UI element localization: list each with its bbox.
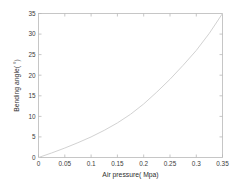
x-tick-marks — [39, 155, 223, 158]
x-tick-label: 0 — [37, 160, 41, 167]
chart-canvas: 0 0.05 0.1 0.15 0.2 0.25 0.3 0.35 0 5 10… — [0, 0, 240, 187]
y-tick-label: 5 — [32, 133, 36, 140]
y-tick-label: 15 — [28, 92, 36, 99]
x-tick-label: 0.05 — [59, 160, 72, 167]
y-tick-label: 10 — [28, 113, 36, 120]
x-tick-label: 0.15 — [111, 160, 124, 167]
y-tick-label: 25 — [28, 51, 36, 58]
x-tick-label: 0.3 — [192, 160, 201, 167]
y-tick-label: 0 — [32, 154, 36, 161]
x-tick-label: 0.1 — [87, 160, 96, 167]
x-tick-label: 0.25 — [164, 160, 177, 167]
y-axis-title: Bending angle( °) — [13, 59, 21, 112]
y-tick-labels: 0 5 10 15 20 25 30 35 — [28, 10, 36, 161]
x-tick-label: 0.35 — [216, 160, 229, 167]
plot-frame — [39, 14, 223, 158]
chart-figure: 0 0.05 0.1 0.15 0.2 0.25 0.3 0.35 0 5 10… — [0, 0, 240, 187]
y-tick-label: 30 — [28, 30, 36, 37]
y-tick-marks-right — [220, 34, 223, 137]
x-tick-label: 0.2 — [139, 160, 148, 167]
x-tick-marks-top — [65, 14, 197, 17]
x-tick-labels: 0 0.05 0.1 0.15 0.2 0.25 0.3 0.35 — [37, 160, 229, 167]
x-axis-title: Air pressure( Mpa) — [102, 171, 158, 179]
y-tick-marks — [39, 14, 42, 158]
data-series-line — [39, 14, 223, 158]
y-tick-label: 35 — [28, 10, 36, 17]
y-tick-label: 20 — [28, 72, 36, 79]
